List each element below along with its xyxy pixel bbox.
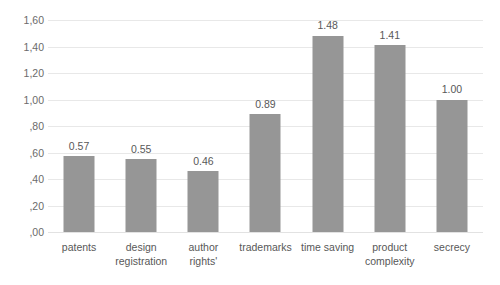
y-axis-tick-label: 1,60 — [2, 15, 44, 26]
bar-slot: 1.00 — [421, 20, 483, 232]
x-axis-category-label: productcomplexity — [359, 240, 421, 268]
bar-value-label: 0.57 — [69, 141, 89, 152]
bars-layer: 0.570.550.460.891.481.411.00 — [48, 20, 483, 232]
bar[interactable] — [188, 171, 219, 232]
y-axis-tick-label: ,80 — [2, 121, 44, 132]
bar[interactable] — [64, 156, 95, 232]
bar-slot: 1.48 — [297, 20, 359, 232]
bar-value-label: 0.89 — [255, 99, 275, 110]
y-axis-tick-label: 1,20 — [2, 68, 44, 79]
bar-value-label: 0.55 — [131, 144, 151, 155]
y-axis-tick-label: ,00 — [2, 227, 44, 238]
y-axis-tick-label: ,40 — [2, 174, 44, 185]
y-axis-tick-labels: ,00,20,40,60,801,001,201,401,60 — [0, 20, 44, 232]
y-axis-tick-label: 1,40 — [2, 41, 44, 52]
bar-value-label: 1.00 — [442, 84, 462, 95]
bar-chart: ,00,20,40,60,801,001,201,401,60 0.570.55… — [0, 0, 500, 285]
bar-value-label: 0.46 — [193, 156, 213, 167]
bar-slot: 0.57 — [48, 20, 110, 232]
x-axis-category-label: authorrights' — [172, 240, 234, 268]
bar-slot: 0.55 — [110, 20, 172, 232]
bar[interactable] — [250, 114, 281, 232]
bar[interactable] — [312, 36, 343, 232]
gridline — [48, 232, 483, 233]
bar-value-label: 1.48 — [317, 20, 337, 31]
x-axis-category-label: designregistration — [110, 240, 172, 268]
bar-slot: 0.46 — [172, 20, 234, 232]
bar-slot: 0.89 — [234, 20, 296, 232]
bar[interactable] — [436, 100, 467, 233]
x-axis-category-label: patents — [48, 240, 110, 254]
y-axis-tick-label: ,20 — [2, 200, 44, 211]
bar[interactable] — [126, 159, 157, 232]
x-axis-category-labels: patentsdesignregistrationauthorrights'tr… — [48, 240, 483, 282]
x-axis-category-label: trademarks — [234, 240, 296, 254]
y-axis-tick-label: 1,00 — [2, 94, 44, 105]
bar[interactable] — [374, 45, 405, 232]
bar-slot: 1.41 — [359, 20, 421, 232]
y-axis-tick-label: ,60 — [2, 147, 44, 158]
x-axis-category-label: secrecy — [421, 240, 483, 254]
x-axis-category-label: time saving — [297, 240, 359, 254]
bar-value-label: 1.41 — [380, 30, 400, 41]
